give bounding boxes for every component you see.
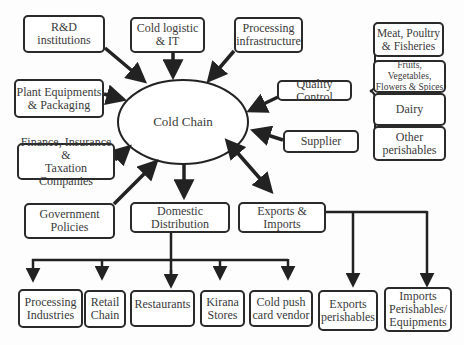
- arrow-finance: [115, 148, 128, 160]
- processing-industries-box[interactable]: Processing Industries: [18, 289, 83, 328]
- arrow-supplier: [255, 131, 283, 140]
- exports-imports-box[interactable]: Exports & Imports: [238, 202, 326, 233]
- fruits-vegetables-box[interactable]: Fruits, Vegetables, Flowers & Spices: [373, 60, 446, 93]
- arrow-government: [114, 163, 155, 204]
- cold-push-card-vendor-box[interactable]: Cold push card vendor: [249, 290, 313, 327]
- arrow-quality: [251, 97, 278, 110]
- cold-logistic-box[interactable]: Cold logistic & IT: [130, 17, 205, 53]
- dairy-box[interactable]: Dairy: [373, 93, 446, 126]
- imports-perishables-box[interactable]: Imports Perishables/ Equipments: [384, 287, 452, 332]
- other-perishables-box[interactable]: Other perishables: [373, 126, 446, 161]
- arrow-plant: [104, 94, 122, 99]
- processing-infrastructure-box[interactable]: Processing infrastructure: [234, 17, 303, 53]
- government-policies-box[interactable]: Government Policies: [24, 203, 115, 239]
- domestic-distribution-box[interactable]: Domestic Distribution: [130, 202, 230, 233]
- exports-perishables-box[interactable]: Exports perishables: [318, 290, 378, 331]
- kirana-stores-box[interactable]: Kirana Stores: [200, 290, 245, 327]
- supplier-box[interactable]: Supplier: [283, 130, 359, 153]
- quality-control-box[interactable]: Quality Control: [277, 80, 352, 101]
- arrow-processing: [210, 51, 234, 79]
- cold-chain-diagram: Cold Chain R&D institutions Cold logisti…: [0, 0, 464, 345]
- retail-chain-box[interactable]: Retail Chain: [84, 290, 126, 328]
- finance-insurance-box[interactable]: Finance, Insurance & Taxation Companies: [17, 143, 115, 180]
- arrow-exports-imports: [235, 150, 270, 190]
- restaurants-box[interactable]: Restaurants: [130, 290, 195, 327]
- plant-equipments-box[interactable]: Plant Equipments & Packaging: [14, 79, 104, 118]
- cold-chain-label: Cold Chain: [150, 114, 216, 130]
- rnd-institutions-box[interactable]: R&D institutions: [23, 15, 105, 53]
- meat-poultry-box[interactable]: Meat, Poultry & Fisheries: [373, 22, 444, 57]
